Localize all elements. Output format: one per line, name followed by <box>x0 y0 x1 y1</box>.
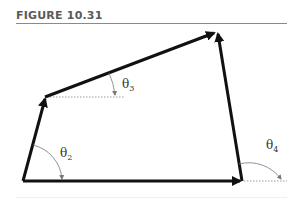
theta2-label: θ2 <box>60 146 72 162</box>
theta3-arc <box>109 73 115 95</box>
theta2-arc <box>33 145 62 179</box>
theta4-label: θ4 <box>266 138 278 154</box>
theta3-label: θ3 <box>122 77 134 93</box>
vector-loop-diagram: θ2 θ3 θ4 <box>0 0 298 207</box>
vector-r4-output <box>218 34 242 181</box>
theta4-arc <box>239 163 281 179</box>
vector-r2-input <box>23 99 45 181</box>
